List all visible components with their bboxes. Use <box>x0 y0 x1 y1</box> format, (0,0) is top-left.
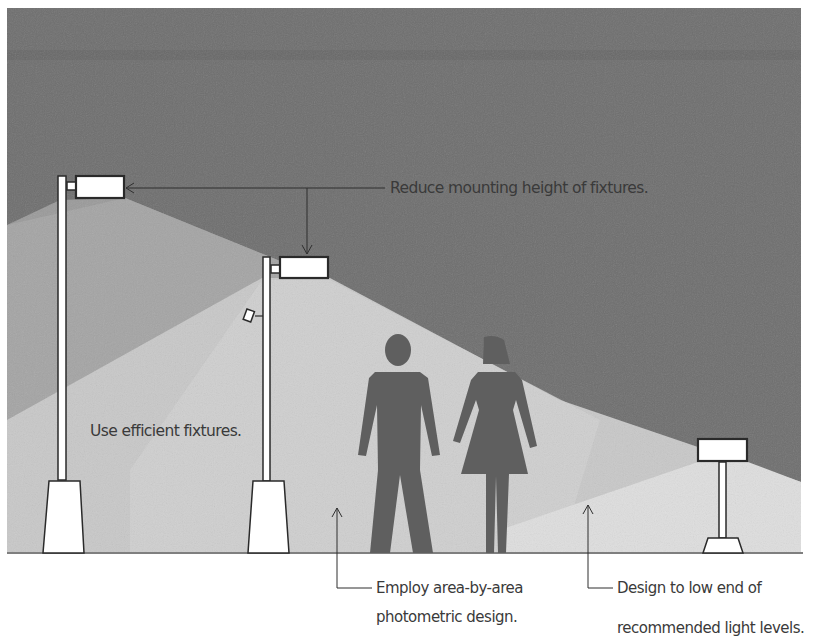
reduce-height-label: Reduce mounting height of fixtures. <box>390 179 648 197</box>
man-head <box>385 334 411 366</box>
photometric-label-line1: Employ area-by-area <box>376 579 523 597</box>
medium-pole-shaft <box>263 257 270 481</box>
medium-pole-fixture <box>280 257 328 278</box>
tall-pole-arm <box>67 182 76 190</box>
medium-pole-arm <box>271 265 280 273</box>
medium-pole-base <box>248 481 289 553</box>
low-end-label-line2: recommended light levels. <box>617 619 804 637</box>
bollard-fixture <box>698 439 747 461</box>
tall-pole-shaft <box>58 176 66 480</box>
efficient-fixtures-label: Use efficient fixtures. <box>90 422 241 440</box>
bollard-base <box>703 538 743 553</box>
tall-pole-base <box>43 481 84 553</box>
low-end-label-line1: Design to low end of <box>617 579 762 597</box>
bollard-shaft <box>719 462 726 538</box>
lighting-diagram: Reduce mounting height of fixtures. Use … <box>0 0 816 640</box>
tall-pole-fixture <box>76 176 124 198</box>
photometric-label-line2: photometric design. <box>376 608 517 626</box>
